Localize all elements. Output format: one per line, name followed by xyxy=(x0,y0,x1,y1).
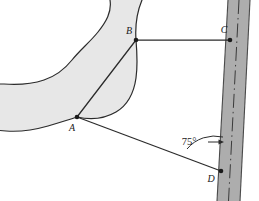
angle-label-75-degrees: 75° xyxy=(182,136,197,147)
swamp-shape xyxy=(0,0,142,131)
point-marker-C xyxy=(228,38,233,43)
point-label-B: B xyxy=(126,25,132,36)
diagram-svg: A B C D 75° xyxy=(0,0,259,201)
figure-canvas: A B C D 75° xyxy=(0,0,259,201)
segment-AD xyxy=(77,117,221,171)
point-marker-B xyxy=(134,38,139,43)
point-label-C: C xyxy=(221,24,228,35)
point-label-A: A xyxy=(68,122,76,133)
swamp-region xyxy=(0,0,142,131)
point-marker-D xyxy=(219,169,224,174)
point-label-D: D xyxy=(206,173,215,184)
point-marker-A xyxy=(75,115,80,120)
